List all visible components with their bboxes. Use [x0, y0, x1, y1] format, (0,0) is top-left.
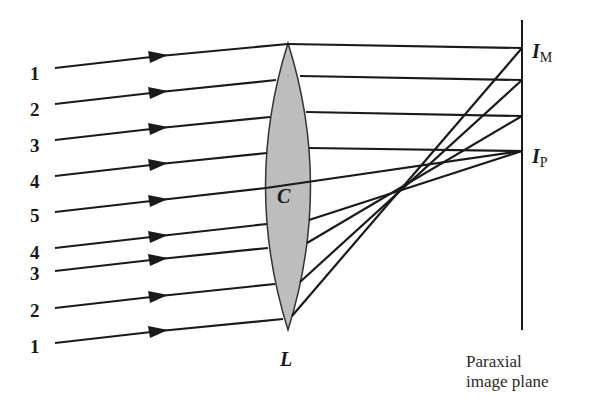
plane-caption-line2: image plane	[466, 372, 549, 391]
lens-center-label: C	[277, 185, 291, 207]
lower-refracted-rays	[292, 48, 522, 316]
paraxial-image-label: IP	[531, 145, 548, 170]
ray-labels: 1 2 3 4 5 4 3 2 1	[30, 63, 40, 357]
ray-label: 3	[30, 135, 40, 156]
ray-label: 4	[30, 171, 40, 192]
ray-label: 2	[30, 99, 40, 120]
ray-label: 3	[30, 263, 40, 284]
plane-caption-line1: Paraxial	[466, 352, 522, 371]
ray-label: 1	[30, 336, 40, 357]
ray-label: 1	[30, 63, 40, 84]
upper-refracted-rays	[288, 44, 522, 151]
incoming-rays	[55, 44, 288, 343]
ray-label: 5	[30, 205, 40, 226]
ray-label: 2	[30, 300, 40, 321]
arrowhead-icons	[148, 51, 168, 338]
ray-label: 4	[30, 242, 40, 263]
lens-label: L	[279, 348, 292, 370]
marginal-image-label: IM	[531, 40, 553, 65]
spherical-aberration-diagram: 1 2 3 4 5 4 3 2 1 C L IM IP Paraxial ima…	[0, 0, 603, 411]
